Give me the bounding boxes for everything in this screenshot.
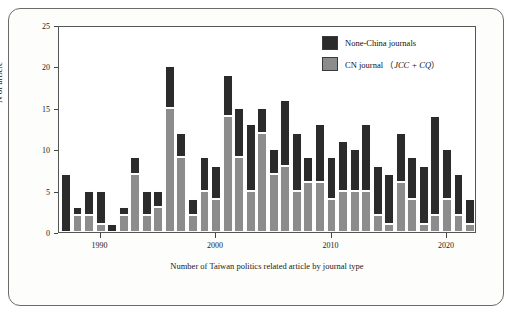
bar-segment-none_china[interactable] <box>211 166 221 199</box>
bar-segment-cn_journal[interactable] <box>338 191 348 232</box>
bar-group[interactable] <box>257 25 267 232</box>
bar-segment-cn_journal[interactable] <box>315 182 325 232</box>
bar-segment-none_china[interactable] <box>142 191 152 216</box>
bar-group[interactable] <box>176 25 186 232</box>
bar-segment-cn_journal[interactable] <box>234 157 244 232</box>
bar-segment-cn_journal[interactable] <box>84 215 94 232</box>
bar-segment-none_china[interactable] <box>407 157 417 198</box>
bar-segment-cn_journal[interactable] <box>303 182 313 232</box>
bar-segment-none_china[interactable] <box>188 199 198 216</box>
bar-group[interactable] <box>130 25 140 232</box>
bar-segment-cn_journal[interactable] <box>442 199 452 232</box>
bar-segment-cn_journal[interactable] <box>211 199 221 232</box>
bar-group[interactable] <box>200 25 210 232</box>
bar-segment-cn_journal[interactable] <box>188 215 198 232</box>
bar-segment-cn_journal[interactable] <box>165 108 175 232</box>
bar-segment-cn_journal[interactable] <box>130 174 140 232</box>
bar-segment-none_china[interactable] <box>384 174 394 224</box>
bar-segment-cn_journal[interactable] <box>430 215 440 232</box>
bar-group[interactable] <box>84 25 94 232</box>
bar-segment-cn_journal[interactable] <box>384 224 394 232</box>
bar-segment-cn_journal[interactable] <box>119 215 129 232</box>
bar-group[interactable] <box>211 25 221 232</box>
bar-segment-none_china[interactable] <box>96 191 106 224</box>
bar-segment-none_china[interactable] <box>361 124 371 190</box>
bar-segment-none_china[interactable] <box>396 133 406 183</box>
bar-segment-none_china[interactable] <box>61 174 71 232</box>
bar-segment-none_china[interactable] <box>73 207 83 215</box>
bar-segment-cn_journal[interactable] <box>361 191 371 232</box>
x-tick-label: 1990 <box>92 241 108 250</box>
bar-segment-cn_journal[interactable] <box>96 224 106 232</box>
bar-segment-none_china[interactable] <box>234 108 244 158</box>
bar-segment-none_china[interactable] <box>303 157 313 182</box>
bar-segment-none_china[interactable] <box>454 174 464 215</box>
bar-segment-cn_journal[interactable] <box>407 199 417 232</box>
bar-segment-none_china[interactable] <box>153 191 163 208</box>
bar-segment-none_china[interactable] <box>84 191 94 216</box>
bar-group[interactable] <box>292 25 302 232</box>
bar-segment-none_china[interactable] <box>107 224 117 232</box>
bar-group[interactable] <box>96 25 106 232</box>
bar-segment-none_china[interactable] <box>315 124 325 182</box>
y-tick-label: 10 <box>6 146 50 155</box>
x-tick-mark <box>215 233 216 238</box>
bar-segment-none_china[interactable] <box>292 133 302 191</box>
bar-segment-cn_journal[interactable] <box>153 207 163 232</box>
bar-group[interactable] <box>107 25 117 232</box>
bar-segment-cn_journal[interactable] <box>257 133 267 232</box>
bar-segment-cn_journal[interactable] <box>246 191 256 232</box>
legend-label-cn-suffix: ） <box>431 60 440 70</box>
legend-item-cn-journal: CN journal （JCC + CQ） <box>322 57 472 71</box>
bar-segment-none_china[interactable] <box>119 207 129 215</box>
bar-group[interactable] <box>73 25 83 232</box>
bar-group[interactable] <box>153 25 163 232</box>
bar-segment-cn_journal[interactable] <box>350 191 360 232</box>
bar-segment-cn_journal[interactable] <box>465 224 475 232</box>
legend-item-none-china: None-China journals <box>322 36 472 50</box>
bar-segment-cn_journal[interactable] <box>176 157 186 232</box>
bar-group[interactable] <box>188 25 198 232</box>
bar-segment-cn_journal[interactable] <box>269 174 279 232</box>
bar-segment-none_china[interactable] <box>373 166 383 216</box>
bar-segment-cn_journal[interactable] <box>419 224 429 232</box>
bar-segment-none_china[interactable] <box>269 149 279 174</box>
bar-group[interactable] <box>280 25 290 232</box>
bar-group[interactable] <box>165 25 175 232</box>
bar-group[interactable] <box>303 25 313 232</box>
bar-segment-none_china[interactable] <box>200 157 210 190</box>
bar-group[interactable] <box>223 25 233 232</box>
bar-segment-cn_journal[interactable] <box>373 215 383 232</box>
bar-segment-none_china[interactable] <box>350 149 360 190</box>
bar-group[interactable] <box>61 25 71 232</box>
bar-segment-cn_journal[interactable] <box>73 215 83 232</box>
bar-segment-none_china[interactable] <box>442 149 452 199</box>
bar-segment-cn_journal[interactable] <box>327 199 337 232</box>
bar-segment-none_china[interactable] <box>130 157 140 174</box>
y-tick-label: 25 <box>6 22 50 31</box>
bar-segment-cn_journal[interactable] <box>200 191 210 232</box>
bar-group[interactable] <box>246 25 256 232</box>
bar-segment-cn_journal[interactable] <box>142 215 152 232</box>
bar-segment-cn_journal[interactable] <box>223 116 233 232</box>
bar-segment-none_china[interactable] <box>246 124 256 190</box>
bar-group[interactable] <box>269 25 279 232</box>
bar-segment-none_china[interactable] <box>223 75 233 116</box>
bar-segment-cn_journal[interactable] <box>454 215 464 232</box>
bar-segment-none_china[interactable] <box>327 157 337 198</box>
bar-segment-none_china[interactable] <box>280 100 290 166</box>
bar-segment-none_china[interactable] <box>338 141 348 191</box>
bar-segment-none_china[interactable] <box>419 166 429 224</box>
bar-group[interactable] <box>234 25 244 232</box>
bar-segment-cn_journal[interactable] <box>292 191 302 232</box>
bar-segment-none_china[interactable] <box>430 116 440 215</box>
bar-group[interactable] <box>119 25 129 232</box>
bar-segment-none_china[interactable] <box>165 66 175 107</box>
bar-segment-none_china[interactable] <box>465 199 475 224</box>
bar-segment-none_china[interactable] <box>257 108 267 133</box>
bar-segment-cn_journal[interactable] <box>396 182 406 232</box>
x-tick-label: 2000 <box>207 241 223 250</box>
bar-segment-cn_journal[interactable] <box>280 166 290 232</box>
bar-group[interactable] <box>142 25 152 232</box>
bar-segment-none_china[interactable] <box>176 133 186 158</box>
